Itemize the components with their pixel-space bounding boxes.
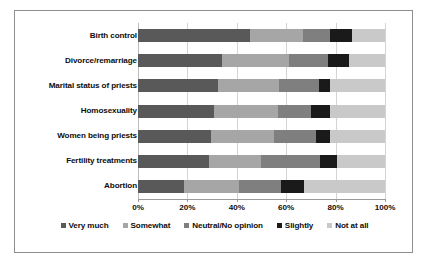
bar-segment	[279, 79, 319, 92]
chart-legend: Very muchSomewhatNeutral/No opinionSligh…	[15, 221, 414, 230]
category-label: Divorce/remarriage	[19, 56, 137, 66]
category-label: Fertility treatments	[19, 156, 137, 166]
stacked-bar	[138, 54, 385, 67]
legend-item[interactable]: Neutral/No opinion	[184, 221, 263, 230]
x-tick-mark	[237, 199, 238, 202]
legend-label: Somewhat	[131, 221, 171, 230]
bar-segment	[138, 180, 184, 193]
legend-label: Very much	[69, 221, 109, 230]
x-tick-mark	[336, 199, 337, 202]
legend-item[interactable]: Slightly	[277, 221, 313, 230]
legend-item[interactable]: Very much	[61, 221, 109, 230]
plot-area: Birth controlDivorce/remarriageMarital s…	[15, 11, 414, 254]
legend-swatch-icon	[184, 223, 189, 228]
legend-label: Neutral/No opinion	[192, 221, 263, 230]
category-label: Women being priests	[19, 131, 137, 141]
bar-segment	[250, 29, 303, 42]
bar-segment	[278, 105, 311, 118]
gridline	[385, 23, 386, 199]
bar-segment	[138, 105, 214, 118]
x-tick-label: 0%	[118, 203, 158, 212]
category-axis-labels: Birth controlDivorce/remarriageMarital s…	[17, 11, 137, 254]
x-tick-label: 20%	[167, 203, 207, 212]
bar-segment	[304, 180, 385, 193]
chart-container: Birth controlDivorce/remarriageMarital s…	[14, 10, 413, 253]
x-tick-label: 100%	[365, 203, 405, 212]
bar-segment	[330, 29, 352, 42]
bar-segment	[316, 130, 330, 143]
bar-segment	[211, 130, 274, 143]
bars-plot	[138, 23, 385, 199]
x-axis-line	[138, 199, 386, 200]
bar-segment	[281, 180, 304, 193]
bar-segment	[239, 180, 280, 193]
bar-segment	[209, 155, 260, 168]
legend-swatch-icon	[61, 223, 66, 228]
bar-segment	[289, 54, 328, 67]
x-tick-label: 60%	[266, 203, 306, 212]
bar-segment	[261, 155, 320, 168]
stacked-bar	[138, 105, 385, 118]
legend-label: Slightly	[285, 221, 313, 230]
bar-segment	[274, 130, 315, 143]
bar-segment	[222, 54, 289, 67]
bar-segment	[337, 155, 385, 168]
stacked-bar	[138, 130, 385, 143]
stacked-bar	[138, 79, 385, 92]
legend-label: Not at all	[335, 221, 368, 230]
bar-segment	[330, 130, 385, 143]
bar-segment	[320, 155, 337, 168]
bar-segment	[214, 105, 278, 118]
legend-swatch-icon	[277, 223, 282, 228]
bar-segment	[349, 54, 385, 67]
x-tick-mark	[187, 199, 188, 202]
bar-segment	[303, 29, 330, 42]
bar-segment	[328, 54, 349, 67]
bar-segment	[319, 79, 330, 92]
category-label: Marital status of priests	[19, 81, 137, 91]
bar-segment	[184, 180, 239, 193]
x-tick-mark	[138, 199, 139, 202]
legend-item[interactable]: Somewhat	[123, 221, 171, 230]
bar-segment	[330, 105, 385, 118]
legend-swatch-icon	[123, 223, 128, 228]
bar-segment	[311, 105, 330, 118]
x-tick-mark	[286, 199, 287, 202]
x-tick-mark	[385, 199, 386, 202]
legend-item[interactable]: Not at all	[327, 221, 368, 230]
stacked-bar	[138, 180, 385, 193]
bar-segment	[352, 29, 385, 42]
stacked-bar	[138, 155, 385, 168]
bar-segment	[330, 79, 385, 92]
bar-segment	[138, 54, 222, 67]
x-tick-label: 80%	[316, 203, 356, 212]
bar-segment	[138, 130, 211, 143]
x-tick-label: 40%	[217, 203, 257, 212]
legend-swatch-icon	[327, 223, 332, 228]
bar-segment	[138, 79, 218, 92]
category-label: Homosexuality	[19, 106, 137, 116]
category-label: Abortion	[19, 181, 137, 191]
bar-segment	[138, 29, 250, 42]
bar-segment	[138, 155, 209, 168]
stacked-bar	[138, 29, 385, 42]
bar-segment	[218, 79, 279, 92]
category-label: Birth control	[19, 31, 137, 41]
